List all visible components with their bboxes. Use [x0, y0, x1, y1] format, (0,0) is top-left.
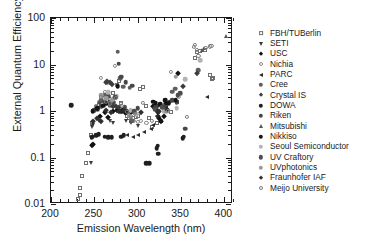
data-point [115, 94, 120, 99]
data-point [109, 135, 114, 140]
data-point [127, 113, 132, 118]
data-point [196, 68, 201, 73]
legend-item-usc: USC [252, 49, 369, 59]
data-point [170, 98, 175, 103]
chart-legend: FBH/TUBerlinSETIUSCNichiaPARCCreeCrystal… [252, 28, 369, 194]
legend-item-riken: Riken [252, 111, 369, 121]
data-point [155, 121, 159, 125]
data-point [155, 143, 160, 148]
legend-marker-icon [252, 173, 270, 183]
data-point [119, 101, 123, 105]
data-point [110, 97, 115, 102]
data-point [91, 123, 95, 127]
data-point [104, 100, 108, 104]
data-point [155, 114, 159, 118]
data-point [102, 110, 107, 115]
data-point [195, 50, 199, 54]
data-point [127, 116, 131, 120]
legend-marker-icon [252, 28, 270, 38]
data-point [153, 107, 158, 112]
data-point [156, 110, 160, 114]
data-point [125, 133, 129, 137]
data-point [180, 136, 185, 141]
data-point [91, 109, 95, 113]
data-point [113, 63, 117, 67]
data-point [111, 91, 115, 95]
data-point [125, 108, 130, 113]
data-point [119, 108, 124, 113]
data-point [115, 49, 120, 54]
legend-label: Seoul Semiconductor [270, 142, 349, 151]
data-point [84, 161, 88, 165]
data-point [128, 85, 133, 90]
axis-tick [226, 204, 231, 205]
data-point [128, 108, 133, 113]
legend-marker-icon [252, 152, 270, 162]
data-point [120, 104, 124, 108]
data-point [78, 193, 82, 197]
data-point [129, 116, 133, 120]
data-point-circle [259, 145, 263, 149]
data-point [99, 95, 103, 99]
data-point [130, 118, 135, 123]
data-point [104, 96, 109, 101]
data-point [103, 101, 107, 105]
data-point [123, 80, 128, 85]
data-point-circle [259, 155, 263, 159]
legend-item-meijo-university: Meijo University [252, 183, 369, 193]
data-point [174, 98, 179, 103]
data-point [170, 89, 175, 94]
y-tick-label: 100 [27, 12, 45, 23]
data-point [92, 108, 97, 113]
data-point [211, 76, 215, 80]
data-point [157, 116, 162, 121]
data-point [136, 114, 140, 118]
data-point [104, 107, 109, 112]
data-point [165, 107, 170, 112]
data-point [180, 83, 185, 88]
data-point [99, 93, 104, 98]
legend-marker-icon [252, 132, 270, 142]
data-point [99, 104, 104, 109]
data-point [104, 93, 108, 97]
data-point-circle [259, 165, 263, 169]
data-point [161, 109, 166, 114]
legend-item-seoul-semiconductor: Seoul Semiconductor [252, 142, 369, 152]
data-point [203, 48, 207, 52]
data-point [115, 84, 120, 89]
data-point [98, 113, 103, 118]
data-point [167, 101, 172, 106]
data-point [109, 98, 114, 103]
data-point [129, 113, 133, 117]
data-point [144, 161, 149, 166]
data-point [121, 107, 126, 112]
data-point [119, 134, 124, 139]
data-point [198, 49, 202, 53]
data-point [164, 105, 168, 109]
data-point [183, 77, 188, 82]
data-point [89, 133, 93, 137]
legend-marker-icon [252, 142, 270, 152]
data-point [103, 90, 107, 94]
data-point [78, 186, 82, 190]
data-point [204, 46, 208, 50]
data-point [134, 112, 139, 117]
data-point [119, 74, 124, 79]
data-point [123, 105, 127, 109]
data-point [136, 124, 140, 128]
legend-label: Nichia [270, 60, 293, 69]
data-point [135, 106, 140, 111]
data-point [124, 119, 128, 123]
data-point [156, 152, 161, 157]
data-point [134, 115, 138, 119]
data-point [76, 197, 80, 201]
data-point [99, 118, 104, 123]
data-point [139, 119, 143, 123]
data-point-open-circle [259, 186, 263, 190]
legend-marker-icon [252, 121, 270, 131]
data-point [155, 110, 160, 115]
data-point [113, 104, 118, 109]
data-point [90, 109, 95, 114]
data-point [89, 135, 94, 140]
data-point [96, 107, 101, 112]
